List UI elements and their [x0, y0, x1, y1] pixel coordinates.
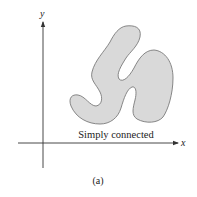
simply-connected-region [70, 26, 173, 124]
x-axis-label: x [180, 137, 186, 148]
region-label: Simply connected [78, 129, 154, 140]
diagram: x y Simply connected (a) [0, 0, 197, 197]
y-axis-label: y [39, 8, 45, 19]
figure-caption: (a) [92, 175, 103, 187]
